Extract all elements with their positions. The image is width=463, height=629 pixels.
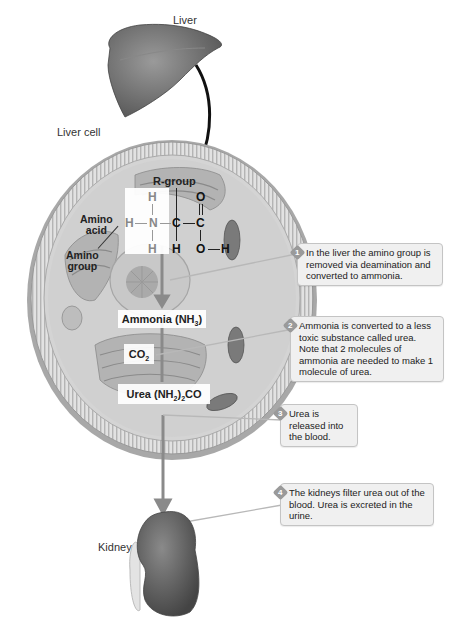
atom-h-hydroxyl: H [221, 242, 230, 256]
atom-n: N [149, 216, 158, 230]
kidney-organ [130, 512, 199, 616]
r-group-label: R-group [153, 176, 196, 187]
bond [200, 230, 201, 241]
callout-step-3: 3 Urea is released into the blood. [280, 404, 358, 447]
kidney-label: Kidney [98, 541, 132, 553]
atom-o-single: O [196, 242, 205, 256]
liver-cell-label: Liver cell [57, 126, 100, 138]
bond [183, 223, 195, 224]
bond [135, 223, 147, 224]
co2-box: CO2 [124, 344, 154, 364]
atom-o-double: O [196, 190, 205, 204]
callout-step-2: 2 Ammonia is converted to a less toxic s… [290, 316, 444, 382]
atom-c-alpha: C [172, 216, 181, 230]
amino-group-label: Amino group [66, 250, 99, 272]
liver-organ [108, 24, 222, 117]
urea-box: Urea (NH2)2CO [118, 384, 210, 404]
callout-step-1: 1 In the liver the amino group is remove… [297, 243, 443, 286]
bond [160, 223, 171, 224]
bond [152, 204, 153, 215]
atom-h-left: H [125, 216, 134, 230]
diagram-illustration [0, 0, 463, 629]
bond [152, 230, 153, 241]
bond [208, 249, 220, 250]
bond [199, 204, 200, 215]
callout-step-4: 4 The kidneys filter urea out of the blo… [280, 483, 434, 526]
bond [202, 204, 203, 215]
amino-acid-label: Amino acid [80, 214, 113, 236]
atom-c-carboxyl: C [196, 216, 205, 230]
atom-h-top: H [148, 190, 157, 204]
ammonia-box: Ammonia (NH3) [118, 310, 206, 328]
atom-h-bottom: H [148, 242, 157, 256]
bond [176, 230, 177, 241]
atom-h-alpha: H [172, 242, 181, 256]
